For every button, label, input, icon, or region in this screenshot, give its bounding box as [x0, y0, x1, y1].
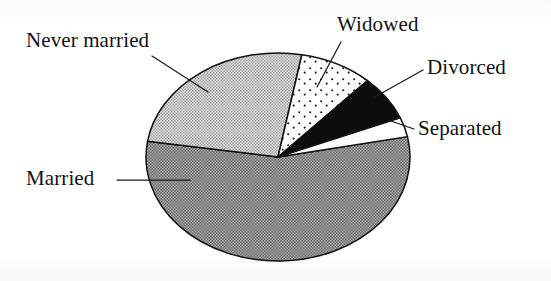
pie-label-divorced: Divorced [427, 57, 506, 78]
pie-slices [146, 53, 410, 261]
pie-label-married: Married [26, 168, 94, 189]
pie-label-widowed: Widowed [337, 14, 419, 35]
pie-label-never-married: Never married [26, 30, 149, 51]
pie-label-separated: Separated [418, 118, 502, 139]
leader-line-divorced [373, 70, 423, 98]
